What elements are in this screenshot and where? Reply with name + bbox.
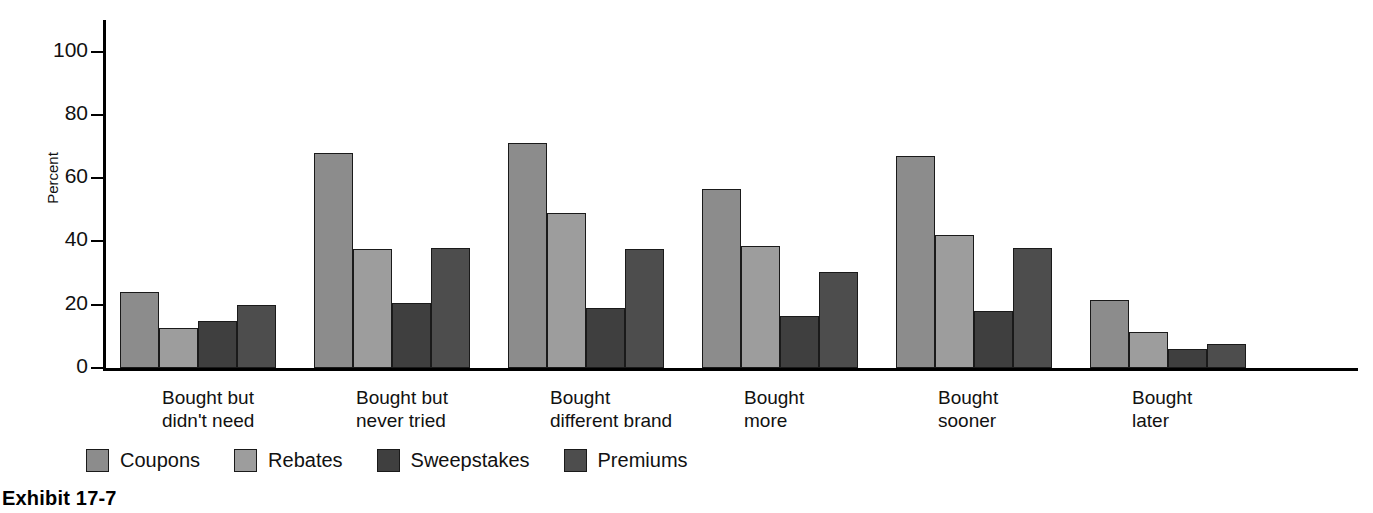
legend-label-rebates: Rebates: [268, 449, 343, 472]
bar-rebates-group-3: [547, 213, 586, 368]
bar-premiums-group-1: [237, 305, 276, 368]
x-axis-group-label-6: Bought later: [1132, 386, 1192, 432]
x-axis-group-label-4: Bought more: [744, 386, 804, 432]
bar-sweepstakes-group-6: [1168, 349, 1207, 368]
bar-premiums-group-6: [1207, 344, 1246, 368]
legend-swatch-premiums: [564, 449, 587, 472]
plot-area: [103, 20, 1358, 370]
bar-sweepstakes-group-4: [780, 316, 819, 368]
y-axis-tick-label-60: 60: [8, 164, 88, 188]
bar-coupons-group-1: [120, 292, 159, 368]
bar-premiums-group-5: [1013, 248, 1052, 368]
legend-swatch-sweepstakes: [377, 449, 400, 472]
chart-legend: CouponsRebatesSweepstakesPremiums: [86, 449, 722, 472]
bar-premiums-group-2: [431, 248, 470, 368]
bar-coupons-group-2: [314, 153, 353, 368]
y-axis-tick-label-80: 80: [8, 101, 88, 125]
bar-rebates-group-4: [741, 246, 780, 368]
y-axis-tick-label-40: 40: [8, 227, 88, 251]
bar-rebates-group-5: [935, 235, 974, 368]
legend-item-coupons[interactable]: Coupons: [86, 449, 200, 472]
bar-premiums-group-4: [819, 272, 858, 368]
y-axis-tick-label-100: 100: [8, 38, 88, 62]
bar-sweepstakes-group-5: [974, 311, 1013, 368]
bar-sweepstakes-group-2: [392, 303, 431, 368]
legend-item-rebates[interactable]: Rebates: [234, 449, 343, 472]
legend-swatch-coupons: [86, 449, 109, 472]
y-axis-tick-label-0: 0: [8, 354, 88, 378]
x-axis-group-label-1: Bought but didn't need: [162, 386, 254, 432]
bar-rebates-group-2: [353, 249, 392, 368]
legend-label-coupons: Coupons: [120, 449, 200, 472]
bar-sweepstakes-group-3: [586, 308, 625, 368]
exhibit-caption: Exhibit 17-7: [2, 487, 117, 510]
legend-label-sweepstakes: Sweepstakes: [411, 449, 530, 472]
x-axis-group-label-3: Bought different brand: [550, 386, 672, 432]
exhibit-figure: Percent 020406080100 Bought but didn't n…: [0, 0, 1373, 513]
bar-premiums-group-3: [625, 249, 664, 368]
bar-coupons-group-6: [1090, 300, 1129, 368]
bar-coupons-group-5: [896, 156, 935, 368]
bar-rebates-group-1: [159, 328, 198, 368]
y-axis-tick-label-20: 20: [8, 291, 88, 315]
legend-item-premiums[interactable]: Premiums: [564, 449, 688, 472]
bar-sweepstakes-group-1: [198, 321, 237, 368]
bar-coupons-group-4: [702, 189, 741, 368]
legend-swatch-rebates: [234, 449, 257, 472]
legend-label-premiums: Premiums: [598, 449, 688, 472]
x-axis-group-label-5: Bought sooner: [938, 386, 998, 432]
bar-rebates-group-6: [1129, 332, 1168, 368]
x-axis-group-label-2: Bought but never tried: [356, 386, 448, 432]
bar-coupons-group-3: [508, 143, 547, 368]
legend-item-sweepstakes[interactable]: Sweepstakes: [377, 449, 530, 472]
